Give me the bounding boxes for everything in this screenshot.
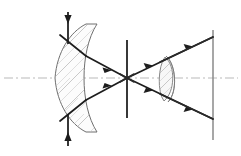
aperture-arrow-down [64,15,71,24]
ray-marginal-upper [160,37,213,62]
aperture-arrow-up [64,132,71,141]
ray-marginal-lower [160,94,213,119]
optical-ray-diagram: Converging lens ray diagram Optical sche… [0,0,241,156]
diagram-canvas: Converging lens ray diagram Optical sche… [0,0,241,156]
